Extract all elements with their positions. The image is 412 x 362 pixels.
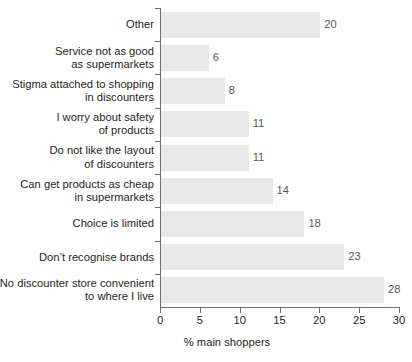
category-label: I worry about safety of products [0,111,154,137]
value-axis-tick-label: 10 [225,314,255,327]
category-axis-tick [155,74,160,75]
value-axis-tick [399,308,400,313]
value-axis-tick-label: 5 [185,314,215,327]
x-axis-title-text: % main shoppers [184,336,270,348]
value-axis-tick [359,308,360,313]
bar [161,178,273,204]
bar-value-label: 14 [277,184,289,197]
category-axis-tick [155,108,160,109]
category-label: Choice is limited [0,217,154,230]
value-axis-tick-label: 0 [145,314,175,327]
bar-value-label: 6 [213,51,219,64]
category-label: Don’t recognise brands [0,251,154,264]
value-axis-tick [240,308,241,313]
bar-value-label: 11 [253,117,265,130]
bar [161,277,384,303]
category-axis-tick [155,174,160,175]
bar [161,211,304,237]
category-axis-tick [155,207,160,208]
value-axis-tick-label: 30 [384,314,412,327]
category-axis-tick [155,274,160,275]
value-axis-tick-label: 15 [265,314,295,327]
value-axis-tick [319,308,320,313]
bar-value-label: 11 [253,151,265,164]
value-axis-tick [160,308,161,313]
value-axis-tick-label: 20 [304,314,334,327]
category-label: Other [0,18,154,31]
bar [161,12,320,38]
category-label: Stigma attached to shopping in discounte… [0,78,154,104]
category-label: Can get products as cheap in supermarket… [0,178,154,204]
bar [161,244,344,270]
value-axis-tick-label: 25 [344,314,374,327]
category-label: Do not like the layout of discounters [0,144,154,170]
x-axis-title: % main shoppers [0,336,412,348]
value-axis-tick [200,308,201,313]
bar-value-label: 8 [229,84,235,97]
bar [161,45,209,71]
bar-value-label: 28 [388,283,400,296]
plot-area: 20Other6Service not as good as supermark… [0,0,412,362]
bar [161,111,249,137]
bar-chart: 20Other6Service not as good as supermark… [0,0,412,362]
bar-value-label: 18 [308,217,320,230]
bar-value-label: 20 [324,18,336,31]
category-axis-tick [155,241,160,242]
category-label: Service not as good as supermarkets [0,45,154,71]
bar-value-label: 23 [348,250,360,263]
category-label: No discounter store convenient to where … [0,277,154,303]
category-axis-tick [155,41,160,42]
bar [161,145,249,171]
value-axis-tick [280,308,281,313]
category-axis-tick [155,8,160,9]
category-axis-tick [155,141,160,142]
bar [161,78,225,104]
